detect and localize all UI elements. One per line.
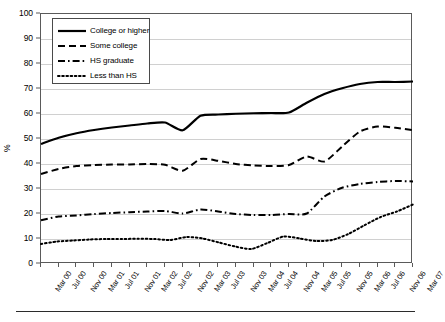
x-tick-label: Nov 06 <box>408 270 427 293</box>
y-axis-title: % <box>3 144 12 152</box>
x-tick-label: Mar 03 <box>213 270 232 293</box>
x-tick-mark <box>253 263 254 267</box>
x-tick-label: Jul 01 <box>123 270 140 290</box>
x-tick-mark <box>75 263 76 267</box>
series-line-some-college <box>41 126 413 174</box>
x-tick-mark <box>146 263 147 267</box>
x-tick-label: Mar 01 <box>107 270 126 293</box>
x-tick-label: Mar 00 <box>54 270 73 293</box>
x-tick-label: Nov 05 <box>355 270 374 293</box>
x-tick-mark <box>164 263 165 267</box>
x-tick-label: Nov 02 <box>196 270 215 293</box>
legend-item[interactable]: College or higher <box>57 23 145 38</box>
x-tick-mark <box>182 263 183 267</box>
x-tick-label: Jul 02 <box>177 270 194 290</box>
legend-swatch-dotted-icon <box>57 71 87 81</box>
series-line-hs-graduate <box>41 181 413 220</box>
y-tick-label: 60 <box>24 109 33 118</box>
x-tick-mark <box>359 263 360 267</box>
x-tick-mark <box>111 263 112 267</box>
x-tick-mark <box>412 263 413 267</box>
x-tick-label: Jul 03 <box>230 270 247 290</box>
x-tick-label: Mar 07 <box>426 270 445 293</box>
legend-label: College or higher <box>90 27 149 35</box>
legend-item[interactable]: Less than HS <box>57 68 145 83</box>
x-tick-label: Jul 00 <box>70 270 87 290</box>
legend-swatch-solid-icon <box>57 26 87 36</box>
x-tick-label: Nov 04 <box>302 270 321 293</box>
y-tick-label: 100 <box>19 9 33 18</box>
series-line-less-than-hs <box>41 205 413 250</box>
x-axis: Mar 00Jul 00Nov 00Mar 01Jul 01Nov 01Mar … <box>40 263 412 322</box>
legend-label: HS graduate <box>90 57 134 65</box>
legend-label: Some college <box>90 42 137 50</box>
x-tick-mark <box>40 263 41 267</box>
y-tick-label: 50 <box>24 134 33 143</box>
x-tick-label: Mar 06 <box>373 270 392 293</box>
y-tick-label: 0 <box>28 259 33 268</box>
series-line-college-or-higher <box>41 82 413 145</box>
legend-swatch-dashed-icon <box>57 41 87 51</box>
legend-item[interactable]: Some college <box>57 38 145 53</box>
x-tick-mark <box>394 263 395 267</box>
legend-label: Less than HS <box>90 72 137 80</box>
chart-legend: College or higherSome collegeHS graduate… <box>52 18 150 84</box>
y-tick-label: 90 <box>24 34 33 43</box>
legend-item[interactable]: HS graduate <box>57 53 145 68</box>
footer-divider <box>16 311 415 312</box>
x-tick-label: Nov 03 <box>249 270 268 293</box>
x-tick-mark <box>306 263 307 267</box>
x-tick-mark <box>129 263 130 267</box>
y-tick-label: 70 <box>24 84 33 93</box>
x-tick-label: Mar 02 <box>160 270 179 293</box>
y-tick-label: 20 <box>24 209 33 218</box>
legend-swatch-dashdot-icon <box>57 56 87 66</box>
x-tick-mark <box>323 263 324 267</box>
x-tick-label: Nov 01 <box>143 270 162 293</box>
x-tick-mark <box>199 263 200 267</box>
y-tick-label: 30 <box>24 184 33 193</box>
y-axis: 0102030405060708090100 <box>0 0 40 276</box>
x-tick-mark <box>217 263 218 267</box>
x-tick-mark <box>341 263 342 267</box>
x-tick-label: Nov 00 <box>90 270 109 293</box>
y-tick-label: 40 <box>24 159 33 168</box>
x-tick-mark <box>93 263 94 267</box>
x-tick-mark <box>377 263 378 267</box>
y-tick-label: 10 <box>24 234 33 243</box>
x-tick-mark <box>235 263 236 267</box>
x-tick-mark <box>270 263 271 267</box>
x-tick-mark <box>288 263 289 267</box>
y-tick-label: 80 <box>24 59 33 68</box>
x-tick-mark <box>58 263 59 267</box>
